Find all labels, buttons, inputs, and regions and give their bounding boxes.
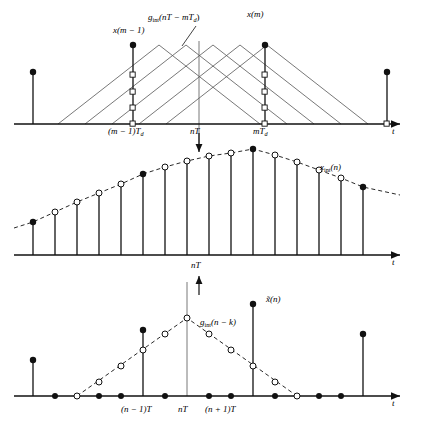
tick-label-n-minus-1-T: (n − 1)T <box>121 404 153 414</box>
top-sample-dots <box>30 42 390 75</box>
kernel-argument: (nT − mT <box>159 12 194 22</box>
axis-label-t-middle: t <box>392 257 395 267</box>
label-g-int-n-minus-k: gint(n − k) <box>200 317 236 328</box>
middle-filled-markers <box>30 146 366 225</box>
tick-label-nT-top: nT <box>190 126 201 136</box>
axis-label-t-top: t <box>392 126 395 136</box>
bottom-stems <box>33 304 363 396</box>
svg-text:xint(n): xint(n) <box>319 162 341 173</box>
bottom-sample-dots <box>30 301 366 363</box>
middle-open-markers <box>52 150 344 215</box>
kernel-label-leader <box>182 26 196 46</box>
interpolation-diagram: x(m − 1) gint(nT − mTd) x(m) (m − 1)Td n… <box>0 0 423 426</box>
kernel-triangles <box>58 45 368 124</box>
interpolated-envelope <box>14 149 400 228</box>
svg-text:mTd: mTd <box>253 126 269 137</box>
tick-label-m-minus-1-Td: (m − 1)Td <box>108 126 145 137</box>
label-x-m: x(m) <box>246 9 264 19</box>
svg-text:gint(n − k): gint(n − k) <box>200 317 236 328</box>
axis-label-t-bottom: t <box>392 398 395 408</box>
middle-stems <box>33 149 363 255</box>
label-x-int-n: xint(n) <box>319 162 341 173</box>
svg-text:gint(nT − mTd): gint(nT − mTd) <box>148 12 200 23</box>
label-g-int-kernel: gint(nT − mTd) <box>148 12 200 23</box>
top-panel <box>14 26 400 145</box>
bottom-panel <box>14 282 400 399</box>
kernel-arg-close: ) <box>197 12 200 22</box>
middle-panel <box>14 133 400 295</box>
label-x-m-minus-1: x(m − 1) <box>112 25 145 35</box>
kernel-intersection-markers <box>130 72 389 126</box>
tick-label-nT-bottom: nT <box>178 404 189 414</box>
svg-text:(m − 1)Td: (m − 1)Td <box>108 126 145 137</box>
tick-label-nT-middle: nT <box>191 260 202 270</box>
tick-label-n-plus-1-T: (n + 1)T <box>205 404 237 414</box>
tick-label-mTd: mTd <box>253 126 269 137</box>
label-x-tilde-n: x̃(n) <box>265 294 281 304</box>
